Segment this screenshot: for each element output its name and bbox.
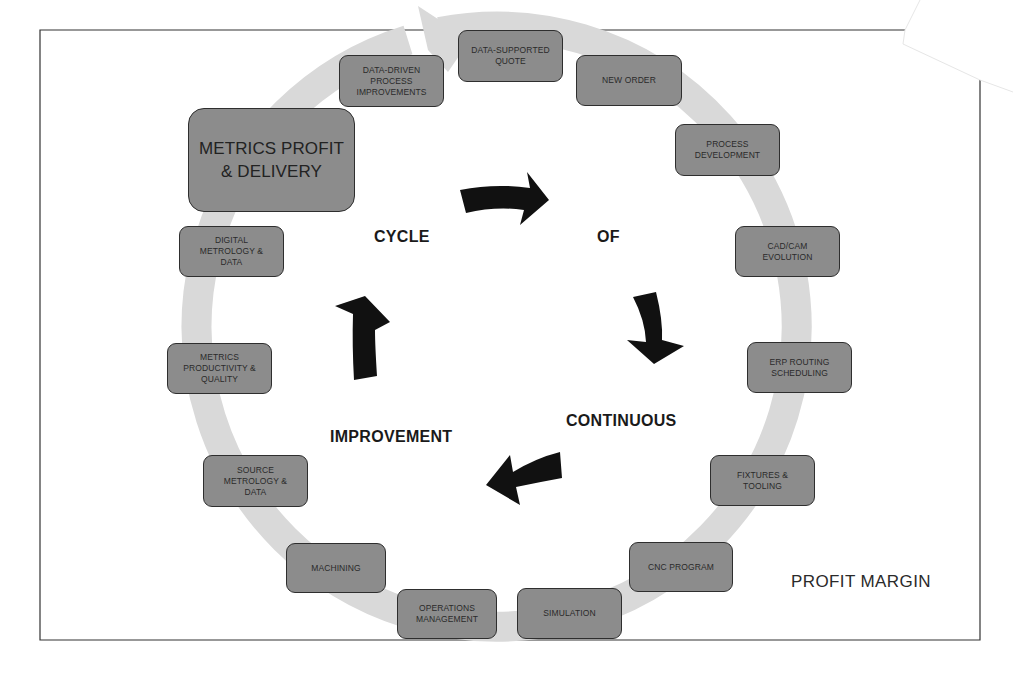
- step-metrics-productivity-quality: METRICS PRODUCTIVITY & QUALITY: [167, 343, 272, 394]
- step-data-driven-process-improvements: DATA-DRIVEN PROCESS IMPROVEMENTS: [339, 55, 444, 107]
- step-cad-cam-evolution: CAD/CAM EVOLUTION: [735, 226, 840, 277]
- continuous-improvement-diagram: DATA-SUPPORTED QUOTE NEW ORDER PROCESS D…: [0, 0, 1013, 677]
- step-machining: MACHINING: [286, 543, 386, 593]
- step-fixtures-tooling: FIXTURES & TOOLING: [710, 455, 815, 506]
- word-improvement: IMPROVEMENT: [330, 428, 452, 446]
- step-erp-routing-scheduling: ERP ROUTING SCHEDULING: [747, 342, 852, 393]
- arrow-down-icon: [627, 292, 684, 364]
- arrow-up-icon: [335, 296, 390, 380]
- word-cycle: CYCLE: [374, 228, 430, 246]
- arrow-right-icon: [460, 172, 549, 225]
- step-digital-metrology-data: DIGITAL METROLOGY & DATA: [179, 226, 284, 277]
- step-process-development: PROCESS DEVELOPMENT: [675, 124, 780, 176]
- cycle-ring: [197, 6, 797, 627]
- profit-margin-label: PROFIT MARGIN: [791, 572, 931, 592]
- step-data-supported-quote: DATA-SUPPORTED QUOTE: [458, 30, 563, 82]
- word-continuous: CONTINUOUS: [566, 412, 677, 430]
- step-new-order: NEW ORDER: [576, 55, 682, 106]
- word-of: OF: [597, 228, 620, 246]
- step-source-metrology-data: SOURCE METROLOGY & DATA: [203, 455, 308, 507]
- step-operations-management: OPERATIONS MANAGEMENT: [397, 589, 497, 639]
- arrow-left-icon: [486, 452, 562, 505]
- step-simulation: SIMULATION: [517, 588, 622, 639]
- step-metrics-profit-delivery: METRICS PROFIT & DELIVERY: [188, 108, 355, 212]
- inner-arrows: [335, 172, 684, 505]
- step-cnc-program: CNC PROGRAM: [629, 542, 733, 592]
